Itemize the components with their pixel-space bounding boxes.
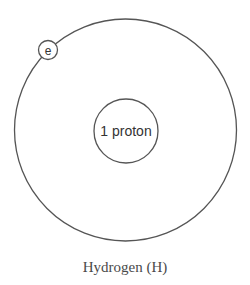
electron-label: e bbox=[45, 44, 52, 58]
nucleus-label: 1 proton bbox=[100, 123, 151, 139]
diagram-caption: Hydrogen (H) bbox=[0, 259, 250, 276]
atom-diagram: 1 proton e bbox=[0, 0, 250, 285]
